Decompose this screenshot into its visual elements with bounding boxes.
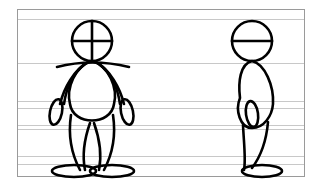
sketch-canvas: Character turnaround sketch on lined pap… [0,0,317,180]
